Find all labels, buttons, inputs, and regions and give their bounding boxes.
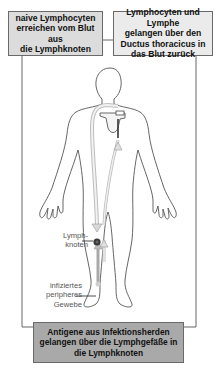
box-text-line: Lymphocyten und Lymphe bbox=[114, 7, 212, 28]
box-text-line: das Blut zurück bbox=[114, 49, 212, 59]
label-line: infiziertes bbox=[30, 281, 82, 290]
box-text-line: gelangen über die Lymphgefäße in bbox=[40, 337, 178, 347]
box-text-line: Antigene aus Infektionsherden bbox=[40, 327, 178, 337]
lymph-node-icon bbox=[93, 238, 100, 245]
label-line: knoten bbox=[40, 240, 88, 249]
box-text-line: die Lymphknoten bbox=[40, 348, 178, 358]
naive-lymphocytes-box: naive Lymphocyten erreichen vom Blut aus… bbox=[8, 11, 103, 56]
lymph-node-label: Lymph- knoten bbox=[40, 231, 88, 250]
label-line: Gewebe bbox=[30, 300, 82, 309]
heart-icon bbox=[100, 111, 125, 138]
infected-tissue-label: infiziertes peripheres Gewebe bbox=[30, 281, 82, 309]
lymph-vessel bbox=[94, 241, 102, 287]
thoracic-duct-path bbox=[100, 140, 122, 262]
box-text-line: Ductus thoracicus in bbox=[114, 39, 212, 49]
box-text-line: naive Lymphocyten bbox=[9, 13, 102, 23]
box-text-line: die Lymphknoten bbox=[9, 44, 102, 54]
label-line: peripheres bbox=[30, 290, 82, 299]
lymph-return-box: Lymphocyten und Lymphe gelangen über den… bbox=[113, 11, 213, 56]
box-text-line: erreichen vom Blut aus bbox=[9, 23, 102, 44]
label-line: Lymph- bbox=[40, 231, 88, 240]
box-text-line: gelangen über den bbox=[114, 28, 212, 38]
antigen-transport-box: Antigene aus Infektionsherden gelangen ü… bbox=[33, 322, 184, 363]
